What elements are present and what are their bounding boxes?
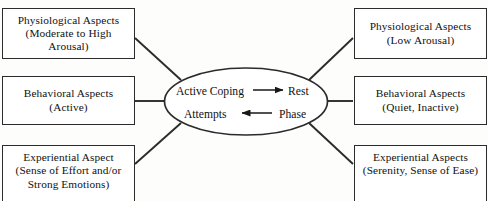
node-physiological-active: Physiological Aspects (Moderate to High … <box>2 8 135 59</box>
node-title: Experiential Aspects <box>373 151 468 164</box>
hub-target-label-2: Attempts <box>184 108 227 121</box>
node-physiological-rest: Physiological Aspects (Low Arousal) <box>354 8 487 59</box>
node-detail: (Low Arousal) <box>387 34 455 47</box>
connector-bottom-right <box>309 123 353 164</box>
concept-diagram: Active Coping Rest Attempts Phase Physio… <box>0 0 488 201</box>
connector-top-left <box>135 38 181 80</box>
node-detail: (Quiet, Inactive) <box>382 101 458 114</box>
node-title: Physiological Aspects <box>370 20 472 33</box>
node-detail: (Serenity, Sense of Ease) <box>363 164 478 177</box>
node-title: Experiential Aspect <box>23 151 114 164</box>
node-detail: Strong Emotions) <box>28 178 110 191</box>
hub-target-label: Rest <box>288 85 309 98</box>
node-title: Behavioral Aspects <box>376 87 465 100</box>
node-detail: Arousal) <box>48 40 88 53</box>
connector-bottom-left <box>135 123 181 164</box>
node-detail: (Sense of Effort and/or <box>16 164 122 177</box>
node-detail: (Active) <box>49 101 87 114</box>
node-behavioral-rest: Behavioral Aspects (Quiet, Inactive) <box>354 76 487 125</box>
hub-source-label-2: Phase <box>279 108 306 121</box>
connector-top-right <box>309 38 353 80</box>
node-experiential-active: Experiential Aspect (Sense of Effort and… <box>2 145 135 201</box>
node-detail: (Moderate to High <box>26 27 112 40</box>
node-behavioral-active: Behavioral Aspects (Active) <box>2 76 135 125</box>
node-experiential-rest: Experiential Aspects (Serenity, Sense of… <box>354 145 487 201</box>
node-title: Physiological Aspects <box>18 14 120 27</box>
node-title: Behavioral Aspects <box>24 87 113 100</box>
hub-ellipse <box>165 68 328 135</box>
hub-source-label: Active Coping <box>176 85 244 98</box>
